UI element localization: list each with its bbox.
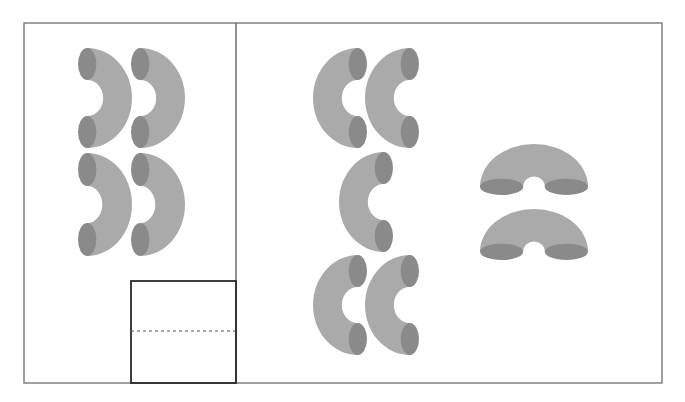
bend-end-opening [401,255,419,287]
bend-end-opening [131,116,149,148]
inset-box [131,281,236,383]
bend-end-opening [78,116,96,148]
bend-end-opening [480,179,523,195]
bend-end-opening [401,116,419,148]
bend-end-opening [78,153,96,186]
bend-end-opening [349,116,367,148]
bend-end-opening [375,152,393,184]
bend-end-opening [131,48,149,80]
bend-end-opening [131,223,149,256]
bend-end-opening [401,48,419,80]
bend-end-opening [375,220,393,252]
shapes-layer [78,48,588,355]
pipe-bend-right [131,153,185,256]
pipe-bend-left [365,48,419,148]
bend-end-opening [78,48,96,80]
pipe-bend-up [480,144,588,195]
pipe-bend-left [339,152,393,252]
bend-end-opening [349,48,367,80]
pipe-bend-diagram [0,0,685,402]
bend-end-opening [131,153,149,186]
pipe-bend-left [313,48,367,148]
pipe-bend-up [480,209,588,260]
bend-end-opening [349,323,367,355]
bend-end-opening [349,255,367,287]
pipe-bend-right [78,48,132,148]
bend-end-opening [78,223,96,256]
pipe-bend-right [78,153,132,256]
pipe-bend-right [131,48,185,148]
bend-end-opening [480,244,523,260]
bend-end-opening [401,323,419,355]
pipe-bend-left [313,255,367,355]
pipe-bend-left [365,255,419,355]
bend-end-opening [545,244,588,260]
bend-end-opening [545,179,588,195]
